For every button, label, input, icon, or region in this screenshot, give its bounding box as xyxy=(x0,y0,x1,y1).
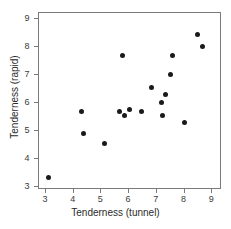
data-points-layer xyxy=(39,13,220,188)
y-tick xyxy=(34,186,38,187)
y-axis-label-wrapper: Tenderness (rapid) xyxy=(4,22,22,172)
x-tick-label: 8 xyxy=(176,194,192,204)
y-tick xyxy=(34,158,38,159)
y-tick xyxy=(34,130,38,131)
data-point xyxy=(79,109,84,114)
x-tick-label: 7 xyxy=(148,194,164,204)
y-axis-label: Tenderness (rapid) xyxy=(9,55,20,138)
data-point xyxy=(139,109,144,114)
data-point xyxy=(163,92,168,97)
data-point xyxy=(160,113,165,118)
scatter-plot-figure: 3456789 3456789 Tenderness (tunnel) Tend… xyxy=(0,0,231,229)
x-tick xyxy=(184,189,185,193)
data-point xyxy=(182,120,187,125)
x-tick xyxy=(100,189,101,193)
data-point xyxy=(195,32,200,37)
x-tick-label: 9 xyxy=(203,194,219,204)
data-point xyxy=(117,109,122,114)
x-tick-label: 4 xyxy=(65,194,81,204)
data-point xyxy=(149,85,154,90)
y-tick-label: 3 xyxy=(22,180,32,192)
y-tick-label: 5 xyxy=(22,124,32,136)
x-tick xyxy=(45,189,46,193)
x-tick-label: 5 xyxy=(92,194,108,204)
y-tick-label: 7 xyxy=(22,68,32,80)
data-point xyxy=(159,100,164,105)
y-tick-label: 9 xyxy=(22,12,32,24)
y-tick-label: 8 xyxy=(22,40,32,52)
y-tick xyxy=(34,18,38,19)
x-tick xyxy=(156,189,157,193)
data-point xyxy=(200,44,205,49)
data-point xyxy=(46,175,51,180)
y-tick xyxy=(34,102,38,103)
y-tick-label: 4 xyxy=(22,152,32,164)
x-axis-label: Tenderness (tunnel) xyxy=(0,207,231,218)
data-point xyxy=(102,141,107,146)
x-tick-label: 6 xyxy=(120,194,136,204)
plot-frame xyxy=(38,12,221,189)
data-point xyxy=(120,53,125,58)
data-point xyxy=(170,53,175,58)
y-tick xyxy=(34,74,38,75)
x-tick-label: 3 xyxy=(37,194,53,204)
data-point xyxy=(127,107,132,112)
data-point xyxy=(81,131,86,136)
y-tick xyxy=(34,46,38,47)
x-tick xyxy=(211,189,212,193)
y-tick-label: 6 xyxy=(22,96,32,108)
x-tick xyxy=(73,189,74,193)
data-point xyxy=(168,72,173,77)
x-tick xyxy=(128,189,129,193)
data-point xyxy=(122,113,127,118)
